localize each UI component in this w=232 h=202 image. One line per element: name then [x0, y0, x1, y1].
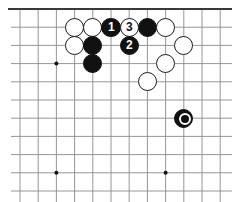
stone-black	[138, 18, 157, 37]
move-number-label: 3	[121, 19, 138, 36]
stone-black-move-2: 2	[120, 36, 139, 55]
stone-white	[83, 18, 102, 37]
move-number-label: 2	[121, 37, 138, 54]
stone-white	[65, 18, 84, 37]
stone-white	[156, 18, 175, 37]
go-diagram: 132	[0, 0, 232, 202]
stone-white	[65, 36, 84, 55]
stone-black-move-1: 1	[101, 18, 120, 37]
move-number-label: 1	[102, 19, 119, 36]
stone-black	[174, 109, 193, 128]
stone-white-move-3: 3	[120, 18, 139, 37]
